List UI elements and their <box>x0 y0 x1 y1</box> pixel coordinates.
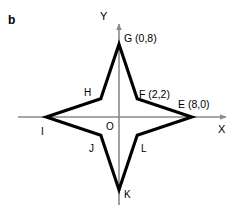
origin-label: O <box>106 122 114 132</box>
vertex-label-e: E (8,0) <box>178 99 210 110</box>
x-axis-label: X <box>218 124 225 135</box>
vertex-label-i: I <box>41 127 44 137</box>
y-axis-label: Y <box>100 11 107 22</box>
vertex-label-h: H <box>84 88 91 98</box>
vertex-label-f: F (2,2) <box>139 89 170 100</box>
vertex-label-j: J <box>89 144 94 154</box>
vertex-label-l: L <box>141 144 147 154</box>
figure-panel-b: b Y X O G (0,8) F (2,2) E (8,0) H I J K … <box>0 0 242 213</box>
panel-letter-b: b <box>8 14 15 26</box>
vertex-label-k: K <box>124 190 131 200</box>
vertex-label-g: G (0,8) <box>124 33 157 44</box>
